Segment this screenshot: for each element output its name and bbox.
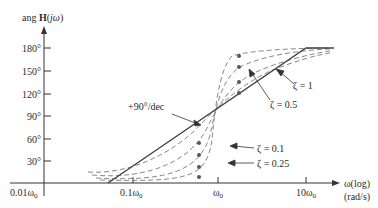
label-zeta-0.5: ζ = 0.5	[270, 99, 297, 111]
asymptote-line	[108, 48, 334, 183]
label-zeta-0.25: ζ = 0.25	[257, 158, 289, 170]
label-zeta-1: ζ = 1	[293, 80, 313, 92]
y-axis-title: ang H(jω)	[22, 12, 63, 24]
y-ticks	[44, 48, 51, 161]
phase-plot: 180° 150° 120° 90° 60° 30° ang H(jω) 0.0…	[0, 0, 378, 208]
y-axis-arrow-icon	[41, 26, 47, 34]
y-tick-180: 180°	[22, 43, 41, 54]
y-tick-60: 60°	[27, 134, 41, 145]
x-tick-10: 10ω0	[296, 187, 317, 200]
y-tick-30: 30°	[27, 156, 41, 167]
y-tick-120: 120°	[22, 89, 41, 100]
curve-zeta-0.25	[96, 49, 330, 179]
y-tick-90: 90°	[27, 111, 41, 122]
x-axis-arrow-icon	[332, 180, 340, 186]
x-axis-title-1: ω(log)	[344, 178, 370, 190]
x-tick-0.1: 0.1ω0	[120, 187, 143, 200]
y-tick-150: 150°	[22, 66, 41, 77]
curve-zeta-1	[88, 53, 330, 172]
x-tick-0.01: 0.01ω0	[10, 187, 38, 200]
x-axis-title-2: (rad/s)	[344, 191, 370, 203]
label-zeta-0.1: ζ = 0.1	[257, 143, 284, 155]
x-tick-1: ω0	[213, 187, 224, 200]
asymptote-label: +90°/dec	[128, 101, 165, 112]
